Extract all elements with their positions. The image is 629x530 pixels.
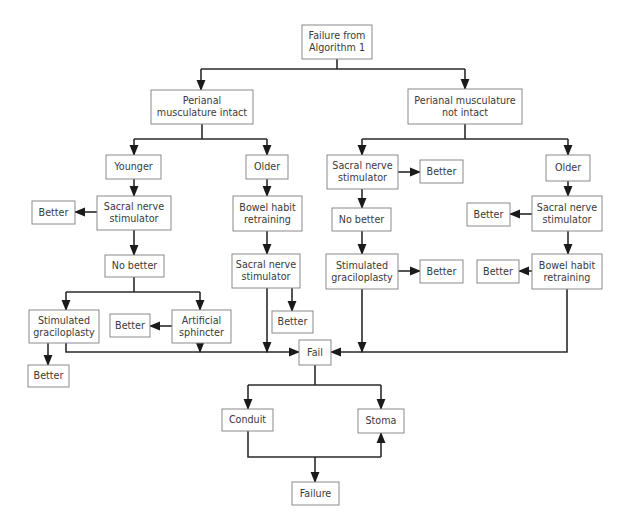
node-label: Stimulated — [336, 260, 388, 271]
node-label: Sacral nerve — [537, 202, 597, 213]
node-art-sph: Artificialsphincter — [172, 310, 231, 343]
node-better-sns-r2: Better — [467, 203, 510, 226]
node-pm-not-intact: Perianal musculaturenot intact — [408, 89, 522, 124]
node-fail: Fail — [299, 340, 331, 365]
node-label: stimulator — [110, 213, 159, 224]
node-label: Better — [427, 266, 457, 277]
node-older-l: Older — [246, 155, 288, 179]
node-label: Artificial — [182, 315, 221, 326]
flowchart: Failure fromAlgorithm 1Perianalmusculatu… — [0, 0, 629, 530]
node-label: Failure from — [309, 30, 366, 41]
node-better-bht-r: Better — [477, 260, 519, 283]
connector-line — [248, 431, 381, 457]
node-label: musculature intact — [157, 107, 248, 118]
node-conduit: Conduit — [222, 409, 273, 431]
node-better-grac-l: Better — [28, 365, 69, 387]
node-label: Failure — [300, 488, 332, 499]
node-label: Fail — [307, 347, 323, 358]
node-label: Better — [427, 166, 457, 177]
connector-line — [66, 343, 299, 352]
node-pm-intact: Perianalmusculature intact — [151, 90, 253, 124]
node-nobetter-l: No better — [105, 255, 164, 277]
node-label: Bowel habit — [539, 260, 596, 271]
node-label: Stimulated — [38, 315, 90, 326]
node-label: Stoma — [366, 415, 397, 426]
node-label: Algorithm 1 — [309, 42, 365, 53]
node-label: Perianal — [183, 95, 221, 106]
node-younger: Younger — [106, 155, 161, 179]
node-label: Better — [39, 207, 69, 218]
node-older-r: Older — [546, 155, 590, 181]
node-failure: Failure — [292, 482, 339, 505]
node-label: Better — [115, 320, 145, 331]
node-bht-r: Bowel habitretraining — [532, 254, 602, 289]
node-label: Better — [483, 266, 513, 277]
node-nobetter-r: No better — [332, 208, 391, 231]
node-sns-r1: Sacral nervestimulator — [327, 155, 398, 189]
node-label: Sacral nerve — [104, 201, 164, 212]
node-label: Older — [555, 162, 581, 173]
node-label: stimulator — [338, 172, 387, 183]
node-label: graciloplasty — [331, 272, 393, 283]
node-label: retraining — [244, 214, 291, 225]
nodes: Failure fromAlgorithm 1Perianalmusculatu… — [28, 25, 602, 505]
node-label: No better — [339, 214, 385, 225]
node-better-r1: Better — [420, 160, 463, 183]
node-label: Perianal musculature — [414, 95, 515, 106]
node-grac-l: Stimulatedgraciloplasty — [29, 310, 99, 343]
node-label: sphincter — [179, 327, 224, 338]
node-sns-r2: Sacral nervestimulator — [532, 196, 602, 231]
node-bht-l: Bowel habitretraining — [233, 196, 302, 231]
node-better-sns-l2: Better — [272, 311, 313, 333]
node-better-grac-r: Better — [420, 260, 463, 283]
node-label: Better — [34, 370, 64, 381]
node-label: Conduit — [229, 414, 266, 425]
node-sns-l1: Sacral nervestimulator — [97, 196, 171, 230]
node-grac-r: Stimulatedgraciloplasty — [326, 254, 398, 289]
node-sns-l2: Sacral nervestimulator — [232, 254, 300, 288]
node-label: Sacral nerve — [332, 160, 392, 171]
node-label: Better — [474, 209, 504, 220]
node-better-art: Better — [110, 314, 150, 337]
connector-line — [331, 289, 567, 352]
node-label: not intact — [442, 107, 488, 118]
node-label: Sacral nerve — [236, 259, 296, 270]
node-stoma: Stoma — [358, 409, 404, 433]
node-label: Bowel habit — [239, 202, 296, 213]
node-label: Younger — [113, 161, 153, 172]
node-label: No better — [112, 260, 158, 271]
node-label: stimulator — [242, 271, 291, 282]
node-label: stimulator — [543, 214, 592, 225]
node-start: Failure fromAlgorithm 1 — [302, 25, 372, 59]
node-label: graciloplasty — [33, 327, 95, 338]
node-label: retraining — [544, 272, 591, 283]
node-label: Better — [278, 316, 308, 327]
node-label: Older — [254, 161, 280, 172]
node-better-l1: Better — [32, 201, 75, 224]
